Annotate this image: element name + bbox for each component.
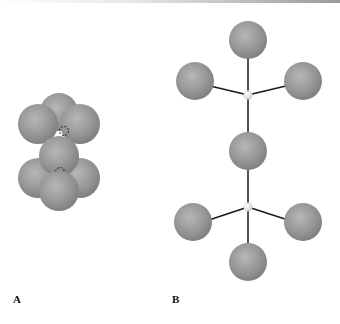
atom-sphere [176, 62, 214, 100]
junction-atom [244, 203, 253, 212]
panel-b-ball-and-stick-model [174, 21, 322, 281]
panel-label-b: B [172, 293, 179, 305]
atom-sphere [39, 136, 79, 176]
molecule-figure [0, 0, 340, 324]
atom-sphere [229, 243, 267, 281]
atom-sphere [284, 203, 322, 241]
atom-sphere [174, 203, 212, 241]
panel-label-a: A [13, 293, 21, 305]
atom-sphere [284, 62, 322, 100]
atom-sphere [229, 132, 267, 170]
panel-a-space-filling-model [18, 93, 100, 211]
junction-atom [244, 91, 253, 100]
atom-sphere [39, 171, 79, 211]
atom-sphere [229, 21, 267, 59]
